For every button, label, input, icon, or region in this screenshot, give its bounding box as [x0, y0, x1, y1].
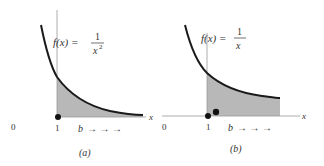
limit-label-b: b: [228, 122, 233, 133]
tick-label-b: 1: [206, 122, 211, 132]
exponent-a: 2: [99, 43, 103, 51]
numerator-a: 1: [95, 31, 100, 42]
function-label-b: f(x) =: [201, 32, 226, 45]
panel-a: f(x) = 1 x 2 x 0 1 b → → → (a): [11, 10, 153, 159]
origin-label-a: 0: [11, 122, 16, 132]
curve-b: [185, 25, 280, 98]
x-axis-label-b: x: [301, 111, 306, 121]
figure: f(x) = 1 x 2 x 0 1 b → → → (a) f(x) = 1 …: [0, 0, 324, 166]
denominator-b: x: [235, 40, 241, 51]
limit-label-a: b: [78, 123, 83, 134]
arrows-b: → → →: [237, 122, 272, 133]
origin-label-b: 0: [162, 122, 167, 132]
denominator-a: x: [92, 45, 98, 56]
tick-label-a: 1: [55, 123, 60, 133]
panel-b: f(x) = 1 x x 0 1 b → → → (b): [162, 25, 306, 155]
shaded-area-a: [57, 77, 143, 117]
function-label-a: f(x) =: [53, 36, 78, 49]
numerator-b: 1: [237, 26, 242, 37]
arrows-a: → → →: [87, 123, 122, 134]
caption-a: (a): [79, 147, 91, 159]
caption-b: (b): [230, 143, 242, 155]
point-a: [55, 114, 61, 120]
x-axis-label-a: x: [148, 112, 153, 122]
point-b-1: [205, 113, 211, 119]
point-b-2: [213, 109, 219, 115]
